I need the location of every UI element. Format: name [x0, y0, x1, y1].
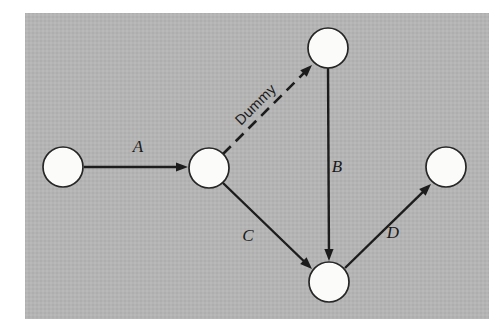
- edge-d-label: D: [386, 223, 400, 242]
- node-start[interactable]: [43, 147, 83, 187]
- node-end[interactable]: [426, 147, 466, 187]
- edge-b-label: B: [332, 157, 343, 176]
- figure-root: A Dummy B C: [0, 0, 504, 335]
- node-top[interactable]: [308, 28, 348, 68]
- edge-a-label: A: [132, 137, 144, 156]
- network-diagram-panel: A Dummy B C: [0, 0, 504, 335]
- node-bottom[interactable]: [309, 262, 349, 302]
- network-diagram-svg: A Dummy B C: [0, 0, 504, 335]
- edge-b-line: [328, 68, 329, 252]
- edge-c-label: C: [242, 226, 254, 245]
- node-junction[interactable]: [189, 148, 229, 188]
